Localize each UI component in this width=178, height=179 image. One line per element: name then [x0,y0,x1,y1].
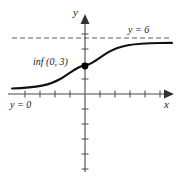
lower-asymptote-label: y = 0 [10,100,31,110]
y-axis-arrowhead [81,14,90,24]
figure-container: y x y = 6 y = 0 inf (0, 3) [0,0,178,179]
inflection-point-label: inf (0, 3) [33,57,68,67]
x-axis-label: x [164,99,169,110]
graph-canvas [0,0,178,179]
upper-asymptote-label: y = 6 [128,25,149,35]
y-axis-label: y [73,7,78,18]
inflection-point-marker [82,63,89,70]
